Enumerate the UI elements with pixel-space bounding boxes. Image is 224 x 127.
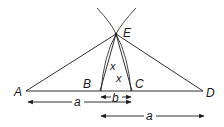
measure-a-left-label: a xyxy=(74,95,81,109)
label-E: E xyxy=(123,26,132,40)
segment-DE xyxy=(116,34,203,91)
geometry-diagram: A B C D E x x a b a xyxy=(0,0,224,127)
label-B: B xyxy=(83,77,91,91)
angle-label-x2: x xyxy=(115,72,122,84)
point-E-dot xyxy=(115,33,118,36)
angle-label-x1: x xyxy=(109,60,116,72)
label-D: D xyxy=(206,86,215,100)
construction-arc-left xyxy=(97,8,116,91)
label-C: C xyxy=(135,77,144,91)
label-A: A xyxy=(13,85,22,99)
measure-a-right-label: a xyxy=(146,109,153,123)
measure-b-label: b xyxy=(112,91,119,105)
